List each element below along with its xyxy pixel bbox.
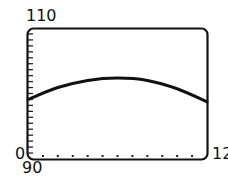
y-axis-ticks	[28, 34, 33, 153]
data-curve	[28, 78, 207, 102]
x-axis-ticks	[42, 155, 193, 157]
chart-frame	[28, 29, 208, 160]
chart-plot-area	[0, 0, 228, 177]
